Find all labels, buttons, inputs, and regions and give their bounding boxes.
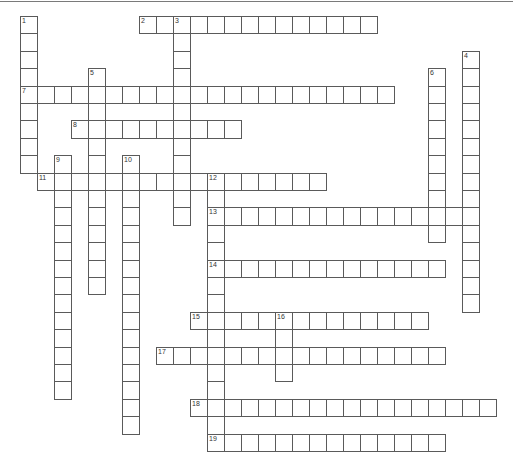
crossword-cell[interactable] xyxy=(343,16,361,34)
crossword-cell[interactable] xyxy=(445,399,463,417)
crossword-cell[interactable] xyxy=(54,207,72,225)
crossword-cell[interactable] xyxy=(139,86,157,104)
crossword-cell[interactable] xyxy=(122,416,140,434)
crossword-cell[interactable] xyxy=(309,434,327,452)
crossword-cell[interactable] xyxy=(156,16,174,34)
crossword-cell[interactable] xyxy=(445,207,463,225)
crossword-cell[interactable] xyxy=(292,399,310,417)
crossword-cell[interactable] xyxy=(258,16,276,34)
crossword-cell[interactable] xyxy=(326,434,344,452)
crossword-cell[interactable] xyxy=(343,86,361,104)
crossword-cell[interactable] xyxy=(20,103,38,121)
crossword-cell[interactable] xyxy=(88,103,106,121)
crossword-cell[interactable] xyxy=(275,364,293,382)
crossword-cell[interactable] xyxy=(411,312,429,330)
crossword-cell[interactable] xyxy=(122,364,140,382)
crossword-cell[interactable] xyxy=(71,86,89,104)
crossword-cell[interactable] xyxy=(122,86,140,104)
crossword-cell[interactable] xyxy=(377,260,395,278)
crossword-cell[interactable] xyxy=(462,399,480,417)
crossword-cell[interactable] xyxy=(343,434,361,452)
crossword-cell[interactable] xyxy=(88,120,106,138)
crossword-cell[interactable] xyxy=(411,434,429,452)
crossword-cell[interactable] xyxy=(122,329,140,347)
crossword-cell[interactable] xyxy=(241,260,259,278)
crossword-cell[interactable] xyxy=(428,225,446,243)
crossword-cell[interactable] xyxy=(122,207,140,225)
crossword-cell[interactable] xyxy=(309,347,327,365)
crossword-cell[interactable] xyxy=(275,173,293,191)
crossword-cell[interactable] xyxy=(462,190,480,208)
crossword-cell[interactable] xyxy=(360,312,378,330)
crossword-cell[interactable] xyxy=(360,207,378,225)
crossword-cell[interactable] xyxy=(275,86,293,104)
crossword-cell[interactable] xyxy=(343,207,361,225)
crossword-cell[interactable] xyxy=(71,173,89,191)
crossword-cell[interactable] xyxy=(88,155,106,173)
crossword-cell[interactable] xyxy=(88,190,106,208)
crossword-cell[interactable] xyxy=(173,68,191,86)
crossword-cell[interactable] xyxy=(462,225,480,243)
crossword-cell[interactable] xyxy=(309,86,327,104)
crossword-cell[interactable] xyxy=(292,86,310,104)
crossword-cell[interactable]: 2 xyxy=(139,16,157,34)
crossword-cell[interactable] xyxy=(54,381,72,399)
crossword-cell[interactable] xyxy=(428,138,446,156)
crossword-cell[interactable] xyxy=(275,260,293,278)
crossword-cell[interactable] xyxy=(173,347,191,365)
crossword-cell[interactable] xyxy=(258,86,276,104)
crossword-cell[interactable] xyxy=(326,312,344,330)
crossword-cell[interactable] xyxy=(173,207,191,225)
crossword-cell[interactable] xyxy=(241,434,259,452)
crossword-cell[interactable] xyxy=(122,260,140,278)
crossword-cell[interactable] xyxy=(411,207,429,225)
crossword-cell[interactable] xyxy=(462,68,480,86)
crossword-cell[interactable] xyxy=(428,260,446,278)
crossword-cell[interactable] xyxy=(139,173,157,191)
crossword-cell[interactable] xyxy=(156,120,174,138)
crossword-cell[interactable] xyxy=(360,86,378,104)
crossword-cell[interactable] xyxy=(190,173,208,191)
crossword-cell[interactable] xyxy=(54,225,72,243)
crossword-cell[interactable] xyxy=(88,225,106,243)
crossword-cell[interactable] xyxy=(173,33,191,51)
crossword-cell[interactable] xyxy=(360,434,378,452)
crossword-cell[interactable] xyxy=(462,120,480,138)
crossword-cell[interactable] xyxy=(462,277,480,295)
crossword-cell[interactable] xyxy=(241,399,259,417)
crossword-cell[interactable] xyxy=(122,277,140,295)
crossword-cell[interactable] xyxy=(394,260,412,278)
crossword-cell[interactable] xyxy=(275,329,293,347)
crossword-cell[interactable] xyxy=(292,312,310,330)
crossword-cell[interactable] xyxy=(207,381,225,399)
crossword-cell[interactable] xyxy=(428,207,446,225)
crossword-cell[interactable] xyxy=(343,347,361,365)
crossword-cell[interactable] xyxy=(224,16,242,34)
crossword-cell[interactable] xyxy=(241,207,259,225)
crossword-cell[interactable] xyxy=(462,155,480,173)
crossword-cell[interactable] xyxy=(207,86,225,104)
crossword-cell[interactable] xyxy=(462,138,480,156)
crossword-cell[interactable] xyxy=(20,68,38,86)
crossword-cell[interactable] xyxy=(224,260,242,278)
crossword-cell[interactable] xyxy=(462,86,480,104)
crossword-cell[interactable] xyxy=(428,86,446,104)
crossword-cell[interactable] xyxy=(275,347,293,365)
crossword-cell[interactable] xyxy=(428,173,446,191)
crossword-cell[interactable]: 11 xyxy=(37,173,55,191)
crossword-cell[interactable] xyxy=(207,225,225,243)
crossword-cell[interactable] xyxy=(428,434,446,452)
crossword-cell[interactable] xyxy=(377,312,395,330)
crossword-cell[interactable] xyxy=(156,86,174,104)
crossword-cell[interactable]: 9 xyxy=(54,155,72,173)
crossword-cell[interactable] xyxy=(207,347,225,365)
crossword-cell[interactable] xyxy=(224,347,242,365)
crossword-cell[interactable] xyxy=(122,399,140,417)
crossword-cell[interactable] xyxy=(190,86,208,104)
crossword-cell[interactable] xyxy=(54,86,72,104)
crossword-cell[interactable] xyxy=(122,381,140,399)
crossword-cell[interactable] xyxy=(224,434,242,452)
crossword-cell[interactable]: 16 xyxy=(275,312,293,330)
crossword-cell[interactable] xyxy=(241,347,259,365)
crossword-cell[interactable] xyxy=(54,312,72,330)
